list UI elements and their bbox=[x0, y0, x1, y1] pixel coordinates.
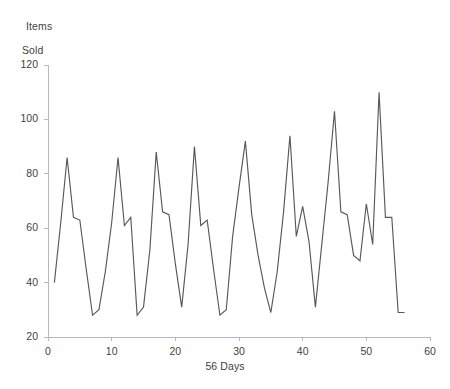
y-tick-label: 60 bbox=[8, 221, 38, 233]
x-tick-label: 20 bbox=[160, 345, 190, 357]
y-tick-label: 80 bbox=[8, 167, 38, 179]
x-tick-label: 40 bbox=[288, 345, 318, 357]
data-line-items-sold bbox=[54, 92, 404, 315]
y-tick-label: 20 bbox=[8, 330, 38, 342]
y-tick-label: 100 bbox=[8, 112, 38, 124]
x-tick-label: 0 bbox=[33, 345, 63, 357]
x-tick-label: 60 bbox=[415, 345, 445, 357]
x-tick-label: 50 bbox=[351, 345, 381, 357]
y-tick-label: 120 bbox=[8, 58, 38, 70]
x-tick-label: 10 bbox=[97, 345, 127, 357]
x-axis-title: 56 Days bbox=[0, 360, 450, 372]
y-tick-label: 40 bbox=[8, 276, 38, 288]
plot-area bbox=[0, 0, 450, 389]
x-tick-label: 30 bbox=[224, 345, 254, 357]
chart-container: Items Sold 20406080100120 0102030405060 … bbox=[0, 0, 450, 389]
